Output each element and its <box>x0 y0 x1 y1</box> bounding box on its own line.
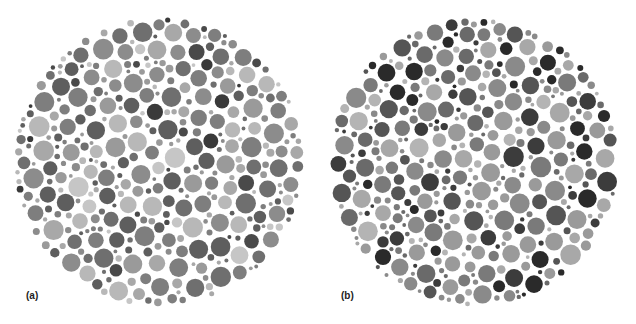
plate-label-b: (b) <box>341 290 354 301</box>
dot-plate-b <box>327 15 621 309</box>
plate-label-a: (a) <box>26 290 38 301</box>
dot-plate-a <box>12 15 306 309</box>
